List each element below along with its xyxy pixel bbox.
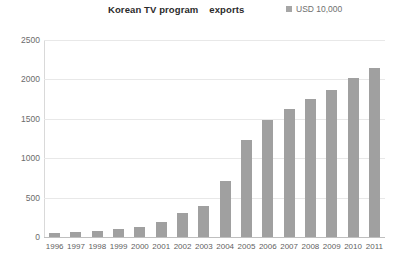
bar[interactable] — [262, 120, 273, 237]
bar-slot — [364, 40, 385, 237]
x-tick-label: 1999 — [110, 242, 128, 251]
bar[interactable] — [220, 181, 231, 237]
x-tick-label: 1996 — [46, 242, 64, 251]
y-tick-label: 500 — [2, 193, 40, 203]
x-tick-label: 1998 — [88, 242, 106, 251]
legend-swatch-icon — [286, 6, 292, 12]
bar-slot — [215, 40, 236, 237]
bar[interactable] — [326, 90, 337, 237]
x-tick-label: 2005 — [238, 242, 256, 251]
x-axis-labels: 1996199719981999200020012002200320042005… — [44, 240, 385, 262]
bar-slot — [129, 40, 150, 237]
x-tick-label: 2003 — [195, 242, 213, 251]
x-tick-label: 2000 — [131, 242, 149, 251]
bar-slot — [300, 40, 321, 237]
x-tick-label: 1997 — [67, 242, 85, 251]
bar-chart: Korean TV program exports USD 10,000 050… — [0, 0, 397, 269]
y-tick-label: 1000 — [2, 153, 40, 163]
x-tick-label: 2004 — [216, 242, 234, 251]
bar[interactable] — [177, 213, 188, 237]
y-tick-label: 1500 — [2, 114, 40, 124]
bar-slot — [257, 40, 278, 237]
x-tick-label: 2009 — [323, 242, 341, 251]
bar[interactable] — [284, 109, 295, 237]
bar[interactable] — [348, 78, 359, 237]
bar[interactable] — [241, 140, 252, 237]
bar-slot — [87, 40, 108, 237]
y-tick-label: 2000 — [2, 74, 40, 84]
bar-slot — [172, 40, 193, 237]
x-tick-label: 2001 — [152, 242, 170, 251]
bar[interactable] — [92, 231, 103, 237]
bar-slot — [321, 40, 342, 237]
bar[interactable] — [156, 222, 167, 237]
bar-slot — [278, 40, 299, 237]
bar[interactable] — [49, 233, 60, 237]
x-tick-label: 2011 — [366, 242, 383, 251]
y-tick-label: 0 — [2, 232, 40, 242]
bar-slot — [236, 40, 257, 237]
bar-slot — [44, 40, 65, 237]
bar[interactable] — [70, 232, 81, 237]
bar-slot — [193, 40, 214, 237]
bar[interactable] — [369, 68, 380, 237]
bar[interactable] — [113, 229, 124, 237]
x-axis-line — [44, 237, 385, 238]
bar-slot — [65, 40, 86, 237]
bar[interactable] — [198, 206, 209, 237]
y-axis-labels: 05001000150020002500 — [0, 0, 40, 269]
chart-legend: USD 10,000 — [286, 4, 342, 14]
y-tick-label: 2500 — [2, 35, 40, 45]
x-tick-label: 2006 — [259, 242, 277, 251]
chart-title: Korean TV program exports — [108, 4, 298, 15]
bar[interactable] — [305, 99, 316, 237]
x-tick-label: 2010 — [344, 242, 362, 251]
bar-slot — [151, 40, 172, 237]
bar[interactable] — [134, 227, 145, 237]
x-tick-label: 2007 — [280, 242, 298, 251]
legend-label: USD 10,000 — [296, 4, 342, 14]
bar-slot — [108, 40, 129, 237]
bar-slot — [342, 40, 363, 237]
x-tick-label: 2008 — [302, 242, 320, 251]
x-tick-label: 2002 — [174, 242, 192, 251]
plot-area — [44, 40, 385, 237]
